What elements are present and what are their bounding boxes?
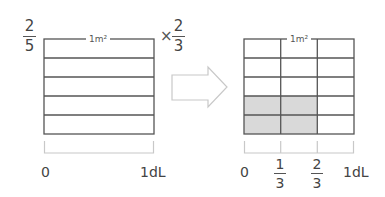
fraction-numerator: 1 [276,157,285,171]
fraction-two-thirds: 2 3 [172,19,185,54]
fraction-bar [274,173,286,174]
fraction-two-fifths: 2 5 [23,19,36,54]
fraction-numerator: 2 [25,19,35,34]
left-axis-end-label: 1dL [140,165,166,179]
left-axis-bracket [45,141,154,153]
right-grid [244,39,354,134]
axis-tick-one-third: 1 3 [274,157,286,190]
fraction-denominator: 3 [174,39,184,54]
right-arrow-icon [172,67,227,107]
right-unit-label: 1m² [287,34,311,44]
fraction-denominator: 5 [25,39,35,54]
right-axis-start-label: 0 [240,165,249,179]
diagram-canvas [0,0,385,197]
fraction-numerator: 2 [174,19,184,34]
axis-tick-two-thirds: 2 3 [311,157,323,190]
right-axis-bracket [245,141,354,153]
multiply-sign: × [160,27,173,45]
right-axis-end-label: 1dL [343,165,369,179]
fraction-denominator: 3 [276,176,285,190]
left-unit-label: 1m² [86,34,110,44]
fraction-denominator: 3 [313,176,322,190]
fraction-numerator: 2 [313,157,322,171]
fraction-bar [311,173,323,174]
left-axis-start-label: 0 [41,165,50,179]
left-grid [44,39,154,134]
